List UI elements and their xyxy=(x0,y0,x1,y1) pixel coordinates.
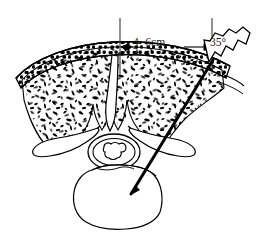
figure-canvas: 4~6cm 35° xyxy=(0,0,260,235)
angle-label: 35° xyxy=(210,36,226,48)
vertebral-body xyxy=(74,165,163,230)
distance-label: 4~6cm xyxy=(133,36,165,48)
